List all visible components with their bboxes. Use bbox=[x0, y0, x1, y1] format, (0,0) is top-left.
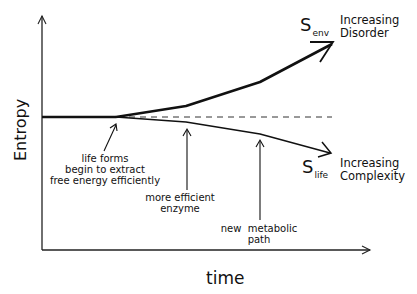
annotation-life-forms-line2: begin to extract bbox=[40, 164, 170, 175]
annotation-life-forms: life forms begin to extract free energy … bbox=[40, 153, 170, 186]
s-life-subscript: life bbox=[314, 170, 328, 180]
s-env-desc-line2: Disorder bbox=[340, 27, 399, 40]
annotation-enzyme-line1: more efficient bbox=[140, 192, 220, 203]
annotation-enzyme: more efficient enzyme bbox=[140, 192, 220, 214]
y-axis-label: Entropy bbox=[13, 99, 29, 161]
s-env-symbol: Senv bbox=[300, 16, 329, 38]
s-life-symbol: Slife bbox=[302, 158, 328, 180]
s-env-curve bbox=[116, 42, 333, 117]
s-life-curve bbox=[116, 117, 331, 157]
annotation-metabolic-line1: new metabolic bbox=[214, 223, 304, 234]
s-env-letter: S bbox=[300, 14, 311, 35]
y-axis bbox=[38, 16, 46, 250]
s-life-letter: S bbox=[302, 156, 313, 177]
s-env-description: Increasing Disorder bbox=[340, 14, 399, 40]
arrow-new-metabolic-path bbox=[256, 140, 264, 220]
annotation-metabolic-path: new metabolic path bbox=[214, 223, 304, 245]
s-env-subscript: env bbox=[312, 28, 329, 38]
s-life-description: Increasing Complexity bbox=[340, 157, 405, 183]
annotation-life-forms-line3: free energy efficiently bbox=[40, 175, 170, 186]
annotation-metabolic-line2: path bbox=[214, 234, 304, 245]
x-axis bbox=[42, 246, 370, 254]
annotation-enzyme-line2: enzyme bbox=[140, 203, 220, 214]
arrow-more-efficient-enzyme bbox=[183, 129, 191, 190]
annotation-life-forms-line1: life forms bbox=[40, 153, 170, 164]
arrow-life-forms bbox=[104, 124, 117, 151]
entropy-diagram-canvas bbox=[0, 0, 417, 294]
s-life-desc-line2: Complexity bbox=[340, 170, 405, 183]
x-axis-label: time bbox=[206, 270, 244, 287]
